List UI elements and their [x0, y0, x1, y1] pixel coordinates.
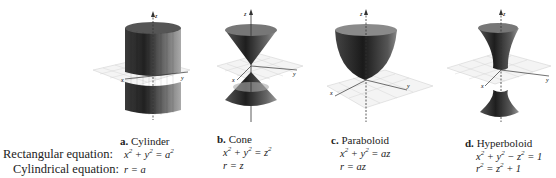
cylinder-graphic: z y x: [85, 0, 195, 125]
rect-eq-cone: x2 + y2 = z2: [223, 147, 272, 158]
figure-cone: z y x: [215, 0, 305, 125]
rectangular-equation-label: Rectangular equation:: [3, 148, 113, 161]
figure-paraboloid: z y x: [325, 0, 435, 125]
svg-text:z: z: [359, 11, 363, 17]
rect-eq-paraboloid: x2 + y2 = az: [340, 148, 390, 159]
hyperboloid-graphic: z y x: [445, 0, 555, 125]
svg-text:y: y: [406, 83, 410, 89]
cyl-eq-hyperboloid: r2 = z2 + 1: [476, 163, 521, 174]
figure-hyperboloid: z y x: [445, 0, 555, 125]
svg-text:x: x: [120, 77, 124, 83]
z-axis-label: z: [154, 13, 158, 19]
caption-cone: b. Cone: [217, 133, 252, 145]
paraboloid-graphic: z y x: [325, 0, 435, 125]
cyl-eq-cylinder: r = a: [124, 164, 146, 175]
svg-text:z: z: [502, 11, 506, 17]
cyl-eq-paraboloid: r = az: [340, 161, 366, 172]
rect-eq-hyperboloid: x2 + y2 − z2 = 1: [476, 151, 542, 162]
cyl-eq-cone: r = z: [223, 160, 244, 171]
cone-graphic: z y x: [215, 0, 305, 125]
svg-text:x: x: [480, 83, 484, 89]
svg-text:y: y: [292, 71, 296, 77]
caption-cylinder: a. Cylinder: [120, 135, 170, 147]
caption-paraboloid: c. Paraboloid: [331, 134, 389, 146]
rect-eq-cylinder: x2 + y2 = a2: [124, 149, 174, 160]
cylindrical-equation-label: Cylindrical equation:: [13, 163, 119, 176]
svg-text:x: x: [231, 77, 235, 83]
svg-text:x: x: [329, 90, 333, 96]
svg-text:y: y: [180, 75, 184, 81]
svg-text:y: y: [545, 77, 549, 83]
figure-cylinder: z y x: [85, 0, 195, 125]
svg-text:z: z: [243, 11, 247, 17]
caption-hyperboloid: d. Hyperboloid: [465, 137, 532, 149]
